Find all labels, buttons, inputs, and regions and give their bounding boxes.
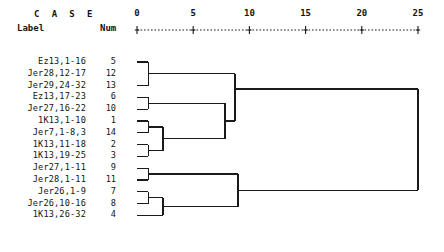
dendrogram-tree [0, 0, 444, 252]
dendrogram-page: C A S E Label Num 0510152025 Ez13,1-165J… [0, 0, 444, 252]
